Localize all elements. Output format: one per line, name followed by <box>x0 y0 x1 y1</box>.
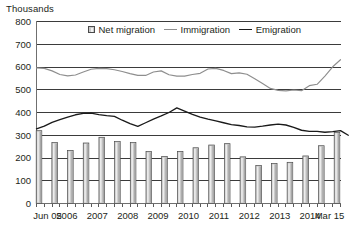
migration-chart: Thousands Net migration Immigration Emig… <box>0 0 353 232</box>
line-series-immigration <box>37 60 341 91</box>
x-tick-label: Mar 15 <box>315 210 345 221</box>
bar <box>303 156 309 204</box>
bar <box>115 142 121 204</box>
y-tick-label: 0 <box>26 198 31 209</box>
x-tick-label: 2007 <box>87 210 108 221</box>
bar <box>240 157 246 204</box>
bar <box>256 166 262 204</box>
x-tick-label: 2008 <box>117 210 138 221</box>
bar <box>209 145 215 203</box>
bar <box>271 163 277 203</box>
x-tick-label: 2010 <box>178 210 199 221</box>
x-tick-label: 2009 <box>148 210 169 221</box>
x-tick-label: 2012 <box>239 210 260 221</box>
bar <box>68 150 74 203</box>
bar <box>130 143 136 204</box>
plot-area: 0100200300400500600700800 Jun 0520062007… <box>0 0 353 232</box>
y-tick-label: 700 <box>15 39 31 50</box>
bar <box>334 132 340 203</box>
bar <box>83 143 89 204</box>
x-tick-labels: Jun 052006200720082009201020112012201320… <box>33 210 344 221</box>
bar <box>146 152 152 204</box>
y-tick-label: 200 <box>15 152 31 163</box>
y-tick-label: 400 <box>15 107 31 118</box>
y-tick-label: 100 <box>15 175 31 186</box>
y-tick-label: 800 <box>15 16 31 27</box>
bar <box>36 131 42 204</box>
y-tick-label: 600 <box>15 61 31 72</box>
bar <box>162 157 168 204</box>
y-tick-label: 500 <box>15 84 31 95</box>
bar <box>224 144 230 204</box>
bar <box>99 137 105 203</box>
x-tick-label: 2011 <box>209 210 229 221</box>
y-tick-label: 300 <box>15 130 31 141</box>
bar <box>319 146 325 204</box>
bar-series-net-migration <box>36 131 340 204</box>
bar <box>52 143 58 204</box>
y-tick-labels: 0100200300400500600700800 <box>15 16 31 209</box>
bar <box>177 151 183 203</box>
x-tick-label: 2006 <box>56 210 77 221</box>
bar <box>287 162 293 203</box>
series-line <box>37 60 341 91</box>
bar <box>193 148 199 204</box>
x-tick-label: 2013 <box>269 210 290 221</box>
